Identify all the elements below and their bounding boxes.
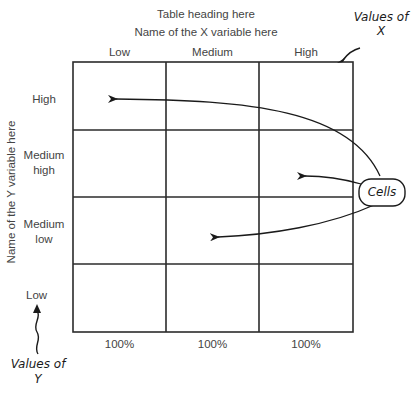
cells-arrow-high-icon: [116, 99, 380, 176]
values-of-x-annotation: Values of X: [350, 10, 412, 38]
cells-arrow-mediumlow-icon: [218, 205, 374, 237]
values-of-y-line2: Y: [4, 372, 72, 387]
values-of-x-arrow-icon: [343, 48, 360, 60]
values-of-x-line2: X: [350, 24, 412, 38]
values-of-y-annotation: Values of Y: [4, 357, 72, 387]
values-of-y-line1: Values of: [4, 357, 72, 372]
diagram-graphics: [0, 0, 412, 409]
values-of-y-arrow-icon: [36, 310, 39, 354]
values-of-x-line1: Values of: [350, 10, 412, 24]
cells-label: Cells: [359, 185, 405, 199]
